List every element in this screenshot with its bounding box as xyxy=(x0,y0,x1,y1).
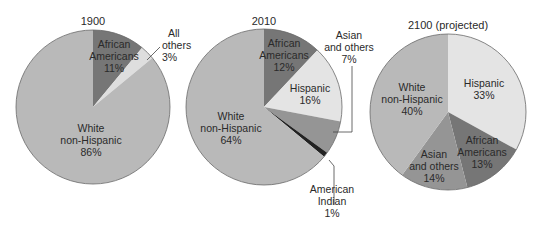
label-2100-white-2: non-Hispanic xyxy=(381,93,442,105)
label-2100-aa-1: African xyxy=(466,134,499,146)
label-2010-aa-2: Americans xyxy=(259,49,309,61)
label-1900-aa-3: 11% xyxy=(104,62,124,74)
label-2010-white-2: non-Hispanic xyxy=(200,122,261,134)
leader-line-all-others xyxy=(147,47,160,60)
label-1900-aa-2: Americans xyxy=(89,50,139,62)
label-2010-asian-1: Asian xyxy=(336,29,362,41)
label-2010-white-1: White xyxy=(218,110,245,122)
label-2100-asian-1: Asian xyxy=(421,148,447,160)
label-2100-hisp-2: 33% xyxy=(473,89,494,101)
label-2100-asian-3: 14% xyxy=(423,172,444,184)
label-2010-indian-2: Indian xyxy=(318,195,347,207)
label-2010-indian-1: American xyxy=(310,183,355,195)
label-1900-others-2: others xyxy=(162,39,191,51)
label-1900-white-3: 86% xyxy=(80,146,101,158)
label-2100-white-3: 40% xyxy=(401,105,422,117)
label-1900-aa-1: African xyxy=(98,38,131,50)
label-1900-others-3: 3% xyxy=(162,51,177,63)
label-2100-aa-2: Americans xyxy=(457,146,507,158)
label-2010-asian-3: 7% xyxy=(341,53,356,65)
label-2100-asian-2: and others xyxy=(409,160,459,172)
pie-title-1900: 1900 xyxy=(81,15,105,27)
label-2010-aa-3: 12% xyxy=(273,61,294,73)
label-2100-aa-3: 13% xyxy=(471,158,492,170)
label-2010-hisp-2: 16% xyxy=(299,94,320,106)
label-2100-white-1: White xyxy=(399,81,426,93)
label-1900-others-1: All xyxy=(168,27,180,39)
label-1900-white-2: non-Hispanic xyxy=(60,134,121,146)
label-2010-white-3: 64% xyxy=(220,134,241,146)
label-2010-hisp-1: Hispanic xyxy=(290,82,330,94)
pie-title-2100: 2100 (projected) xyxy=(408,19,488,31)
pie-charts: 1900 2010 2100 (projected) African Ameri… xyxy=(0,0,540,229)
label-2010-asian-2: and others xyxy=(324,41,374,53)
label-2010-aa-1: African xyxy=(268,37,301,49)
label-2010-indian-3: 1% xyxy=(324,207,339,219)
label-2100-hisp-1: Hispanic xyxy=(464,77,504,89)
label-1900-white-1: White xyxy=(78,122,105,134)
pie-title-2010: 2010 xyxy=(252,15,276,27)
